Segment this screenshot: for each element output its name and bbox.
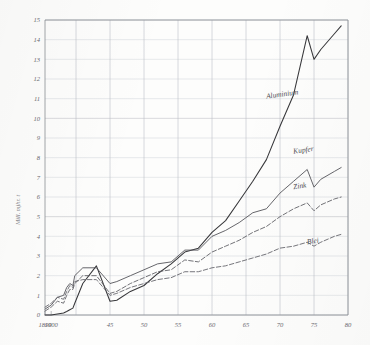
x-tick-label: 50 bbox=[141, 321, 148, 328]
x-tick-label: 60 bbox=[209, 321, 216, 328]
y-tick-label: 10 bbox=[33, 115, 40, 122]
y-tick-label: 9 bbox=[37, 134, 41, 141]
y-tick-label: 2 bbox=[37, 272, 41, 279]
y-tick-label: 11 bbox=[34, 95, 40, 102]
y-tick-label: 14 bbox=[33, 36, 40, 43]
y-tick-label: 15 bbox=[33, 16, 40, 23]
data-curves bbox=[45, 26, 341, 315]
x-tick-label: 55 bbox=[175, 321, 182, 328]
x-tick-label: 80 bbox=[345, 321, 352, 328]
y-tick-label: 6 bbox=[37, 193, 41, 200]
x-tick-label: 70 bbox=[277, 321, 284, 328]
curve-blei bbox=[45, 234, 341, 307]
y-tick-label: 7 bbox=[37, 174, 41, 181]
line-chart-svg: 0123456789101112131415 18901900455055606… bbox=[0, 0, 370, 345]
y-tick-labels: 0123456789101112131415 bbox=[33, 16, 40, 318]
x-tick-label: 1900 bbox=[45, 321, 59, 328]
curve-zink bbox=[45, 197, 341, 311]
y-tick-label: 12 bbox=[33, 75, 40, 82]
y-axis-title: Mill. mjhr. t bbox=[14, 195, 21, 226]
x-tick-label: 45 bbox=[107, 321, 114, 328]
grid-horizontal bbox=[45, 20, 348, 315]
y-tick-label: 8 bbox=[37, 154, 41, 161]
curve-label-zink: Zink bbox=[293, 180, 308, 191]
curve-label-blei: Blei bbox=[306, 236, 319, 247]
grid-vertical bbox=[45, 20, 348, 315]
curve-label-kupfer: Kupfer bbox=[292, 144, 315, 156]
y-tick-label: 1 bbox=[37, 292, 40, 299]
y-tick-label: 4 bbox=[37, 233, 41, 240]
chart-figure: 0123456789101112131415 18901900455055606… bbox=[0, 0, 370, 345]
y-tick-label: 13 bbox=[33, 56, 40, 63]
x-tick-label: 65 bbox=[243, 321, 250, 328]
y-tick-label: 3 bbox=[36, 252, 41, 259]
x-tick-labels: 189019004550556065707580 bbox=[38, 321, 352, 328]
y-tick-label: 0 bbox=[37, 311, 41, 318]
x-tick-label: 75 bbox=[311, 321, 318, 328]
y-tick-label: 5 bbox=[37, 213, 41, 220]
